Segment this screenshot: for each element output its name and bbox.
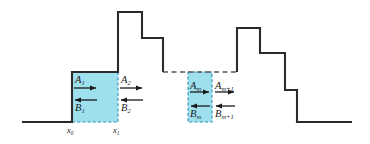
label-B1: B1 [75,103,85,114]
potential-diagram-svg [0,0,370,144]
axis-tick-label-x1: x1 [113,126,119,135]
step-potential-figure: A1 B1 A2 B2 Am Bm Am+1 Bm+1 x0 x1 [0,0,370,144]
label-Bm: Bm [190,109,201,120]
label-B2: B2 [121,103,131,114]
potential-curve-right [237,28,352,122]
axis-tick-label-x0: x0 [67,126,73,135]
label-Am-plus-1: Am+1 [215,81,234,92]
label-A1: A1 [75,75,85,86]
label-Am: Am [190,81,201,92]
label-A2: A2 [121,75,131,86]
label-Bm-plus-1: Bm+1 [215,109,234,120]
